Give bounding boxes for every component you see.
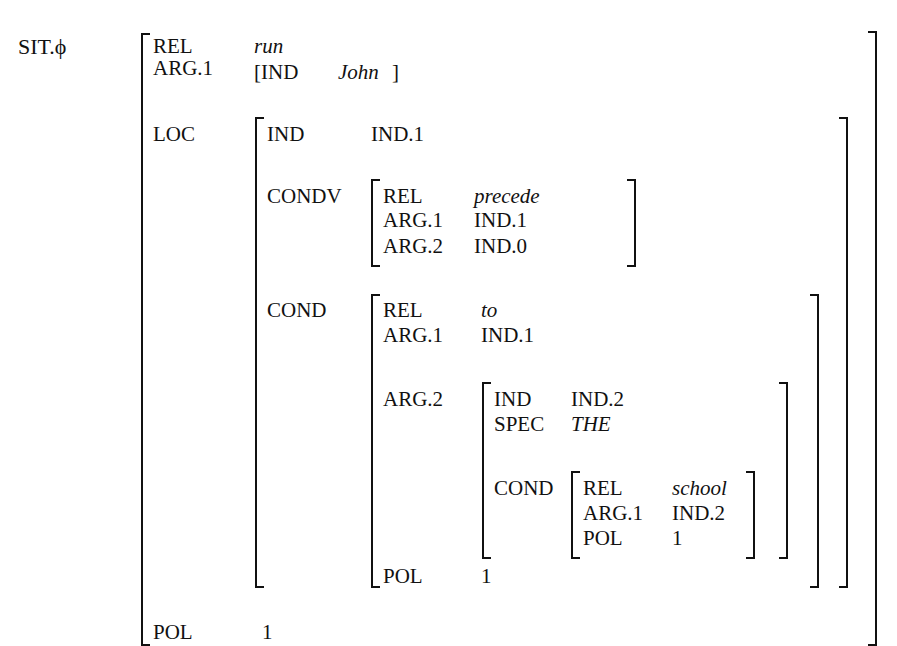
cond-arg1-key: ARG.1	[383, 325, 443, 346]
arg2-ind-value: IND.2	[571, 389, 624, 410]
cond-arg1-value: IND.1	[481, 325, 534, 346]
arg2-spec-key: SPEC	[494, 414, 544, 435]
cond-pol-key: POL	[383, 566, 423, 587]
loc-ind-key: IND	[267, 124, 304, 145]
loc-ind-value: IND.1	[371, 124, 424, 145]
condv-right-bracket	[627, 179, 636, 267]
top-loc-key: LOC	[153, 124, 195, 145]
school-arg1-key: ARG.1	[583, 503, 643, 524]
arg2-left-bracket	[482, 382, 491, 559]
loc-cond-key: COND	[267, 300, 327, 321]
top-pol-value: 1	[262, 622, 273, 643]
condv-left-bracket	[371, 179, 380, 267]
condv-arg1-value: IND.1	[474, 210, 527, 231]
cond-rel-value: to	[481, 300, 497, 321]
cond-right-bracket	[810, 294, 819, 588]
loc-condv-key: CONDV	[267, 186, 342, 207]
outer-left-bracket	[141, 33, 150, 646]
condv-rel-key: REL	[383, 186, 423, 207]
condv-arg1-key: ARG.1	[383, 210, 443, 231]
cond-pol-value: 1	[481, 566, 492, 587]
condv-rel-value: precede	[474, 186, 540, 207]
cond-left-bracket	[371, 294, 380, 588]
top-pol-key: POL	[153, 622, 193, 643]
arg2-ind-key: IND	[494, 389, 531, 410]
condv-arg2-value: IND.0	[474, 236, 527, 257]
cond-arg2-key: ARG.2	[383, 389, 443, 410]
arg2-right-bracket	[779, 382, 788, 559]
top-rel-value: run	[254, 36, 283, 57]
top-arg1-value: John	[338, 62, 379, 83]
school-rel-value: school	[672, 478, 727, 499]
loc-left-bracket	[255, 117, 264, 588]
condv-arg2-key: ARG.2	[383, 236, 443, 257]
root-label: SIT.ϕ	[18, 36, 66, 58]
school-arg1-value: IND.2	[672, 503, 725, 524]
school-rel-key: REL	[583, 478, 623, 499]
school-pol-value: 1	[672, 528, 683, 549]
arg2-cond-key: COND	[494, 478, 554, 499]
outer-right-bracket	[868, 31, 877, 646]
top-arg1-open: [IND	[254, 62, 298, 83]
top-rel-key: REL	[153, 36, 193, 57]
top-arg1-key: ARG.1	[153, 58, 213, 79]
cond-rel-key: REL	[383, 300, 423, 321]
school-pol-key: POL	[583, 528, 623, 549]
school-left-bracket	[571, 471, 580, 559]
arg2-spec-value: THE	[571, 414, 611, 435]
loc-right-bracket	[839, 117, 848, 588]
school-right-bracket	[746, 471, 755, 559]
top-arg1-close: ]	[392, 62, 399, 83]
